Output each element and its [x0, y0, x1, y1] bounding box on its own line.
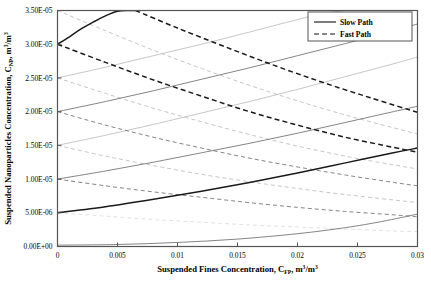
suspended-nanoparticles-vs-fines-chart: 00.0050.010.0150.020.0250.030.00E+005.00… [0, 0, 431, 281]
y-axis: 0.00E+005.00E-061.00E-051.50E-052.00E-05… [23, 6, 61, 251]
x-tick-label: 0.025 [349, 251, 366, 260]
legend-label-0: Slow Path [340, 18, 373, 27]
y-tick-label: 2.50E-05 [25, 74, 53, 83]
x-tick-label: 0.015 [229, 251, 246, 260]
legend: Slow PathFast Path [308, 12, 412, 41]
x-tick-label: 0.03 [411, 251, 424, 260]
y-tick-label: 5.00E-06 [25, 208, 53, 217]
y-tick-label: 3.50E-05 [25, 6, 53, 15]
y-tick-label: 3.00E-05 [25, 40, 53, 49]
legend-label-1: Fast Path [340, 30, 372, 39]
x-axis-title: Suspended Fines Concentration, CFP, m3/m… [157, 264, 318, 275]
y-tick-label: 1.00E-05 [25, 175, 53, 184]
x-tick-label: 0 [56, 251, 60, 260]
y-tick-label: 0.00E+00 [23, 242, 52, 251]
y-tick-label: 2.00E-05 [25, 107, 53, 116]
x-tick-label: 0.02 [291, 251, 304, 260]
x-tick-label: 0.005 [109, 251, 126, 260]
y-tick-label: 1.50E-05 [25, 141, 53, 150]
plot-background [58, 11, 418, 247]
chart-figure: 00.0050.010.0150.020.0250.030.00E+005.00… [0, 0, 431, 281]
x-tick-label: 0.01 [171, 251, 184, 260]
y-axis-title: Suspended Nanoparticles Concentration, C… [3, 32, 14, 225]
